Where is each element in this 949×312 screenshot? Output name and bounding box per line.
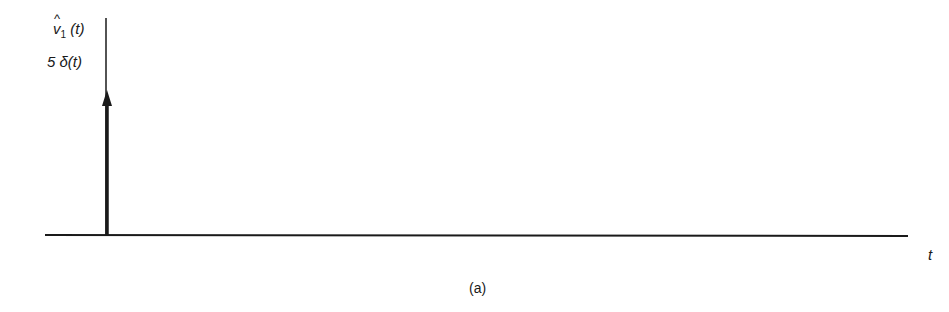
figure-canvas: ^ v 1 (t) 5 δ(t) t (a) [0,0,949,312]
impulse-arrowhead-icon [102,90,112,106]
impulse-label: 5 δ(t) [47,53,82,70]
y-axis-argument: (t) [70,20,84,37]
y-axis-label: ^ v 1 (t) [53,20,84,37]
time-axis [45,235,908,236]
x-axis-label: t [928,246,932,263]
figure-caption: (a) [469,280,486,296]
hat-accent: ^ [54,11,60,26]
y-axis-subscript: 1 [61,29,67,40]
plot-axes [0,0,949,312]
